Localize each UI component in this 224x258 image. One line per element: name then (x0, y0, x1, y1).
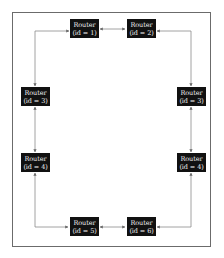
router-node-5[interactable]: Router (id = 5) (70, 217, 99, 236)
node-label: Router (127, 21, 156, 29)
node-label: Router (177, 89, 206, 97)
node-id: (id = 4) (21, 163, 50, 171)
node-id: (id = 1) (70, 29, 99, 37)
node-id: (id = 3) (177, 97, 206, 105)
node-id: (id = 6) (127, 227, 156, 235)
router-node-3-right[interactable]: Router (id = 3) (177, 87, 206, 106)
node-label: Router (21, 155, 50, 163)
router-node-4-left[interactable]: Router (id = 4) (21, 153, 50, 172)
edge-4l-5 (35, 173, 68, 227)
router-node-1[interactable]: Router (id = 1) (70, 19, 99, 38)
edge-4r-6 (157, 173, 191, 227)
connection-lines (0, 0, 224, 258)
node-label: Router (21, 89, 50, 97)
edge-2-3r (157, 31, 191, 86)
node-id: (id = 4) (177, 163, 206, 171)
router-node-4-right[interactable]: Router (id = 4) (177, 153, 206, 172)
node-label: Router (70, 21, 99, 29)
node-label: Router (177, 155, 206, 163)
router-node-2[interactable]: Router (id = 2) (127, 19, 156, 38)
node-id: (id = 5) (70, 227, 99, 235)
router-node-3-left[interactable]: Router (id = 3) (21, 87, 50, 106)
node-label: Router (70, 219, 99, 227)
router-node-6[interactable]: Router (id = 6) (127, 217, 156, 236)
node-id: (id = 2) (127, 29, 156, 37)
node-label: Router (127, 219, 156, 227)
node-id: (id = 3) (21, 97, 50, 105)
edge-1-3l (35, 31, 69, 86)
